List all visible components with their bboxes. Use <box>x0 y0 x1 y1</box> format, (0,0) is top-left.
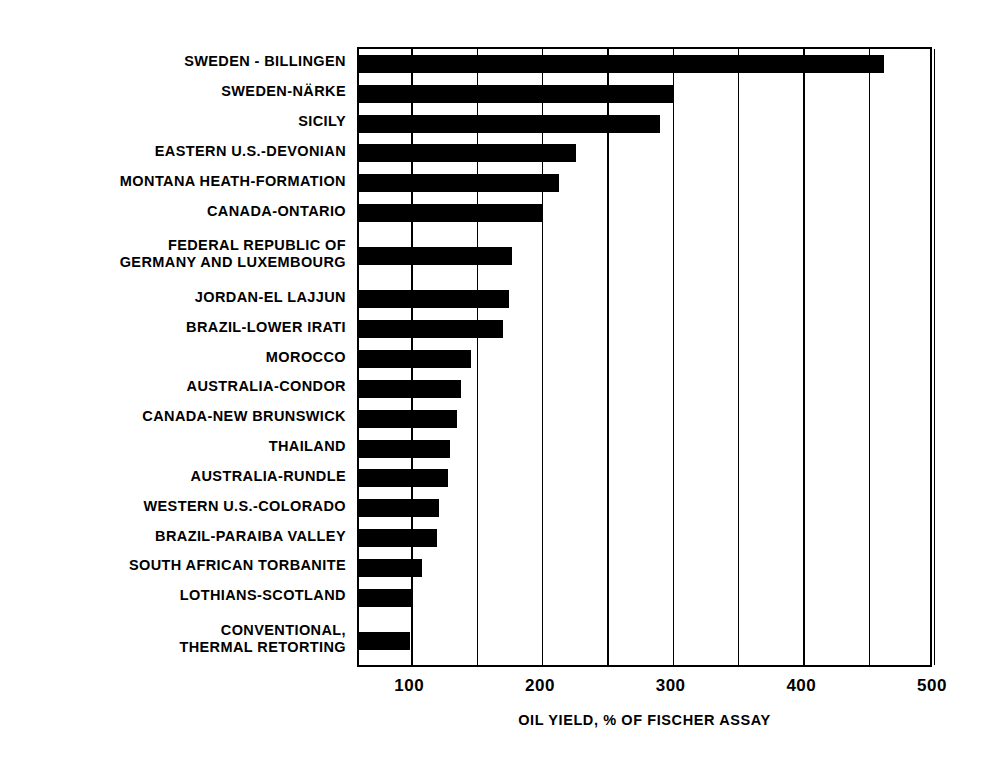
bar <box>359 144 576 162</box>
bar <box>359 440 450 458</box>
category-label: BRAZIL-LOWER IRATI <box>0 319 352 336</box>
bar <box>359 499 439 517</box>
x-tick-label-500: 500 <box>917 676 947 696</box>
category-label: CONVENTIONAL, THERMAL RETORTING <box>0 622 352 656</box>
bar <box>359 529 437 547</box>
category-label: MONTANA HEATH-FORMATION <box>0 173 352 190</box>
bar <box>359 350 471 368</box>
bar <box>359 632 410 650</box>
x-tick-label-200: 200 <box>525 676 555 696</box>
bar <box>359 55 884 73</box>
category-label: JORDAN-EL LAJJUN <box>0 289 352 306</box>
bar <box>359 115 660 133</box>
gridline-300 <box>673 49 674 665</box>
gridline-350 <box>738 49 739 665</box>
category-label: CANADA-ONTARIO <box>0 203 352 220</box>
gridline-250 <box>607 49 608 665</box>
gridline-200 <box>542 49 543 665</box>
x-tick-label-100: 100 <box>394 676 424 696</box>
bar <box>359 247 512 265</box>
category-label: THAILAND <box>0 438 352 455</box>
category-label: WESTERN U.S.-COLORADO <box>0 498 352 515</box>
x-axis-title: OIL YIELD, % OF FISCHER ASSAY <box>357 712 932 728</box>
bar <box>359 469 448 487</box>
category-axis-labels: SWEDEN - BILLINGENSWEDEN-NÄRKESICILYEAST… <box>0 47 352 667</box>
x-tick-label-400: 400 <box>786 676 816 696</box>
category-label: AUSTRALIA-RUNDLE <box>0 468 352 485</box>
plot-area <box>357 47 932 667</box>
category-label: FEDERAL REPUBLIC OF GERMANY AND LUXEMBOU… <box>0 237 352 271</box>
x-axis-tick-labels: 100200300400500 <box>0 676 990 702</box>
category-label: SWEDEN - BILLINGEN <box>0 53 352 70</box>
bar <box>359 85 673 103</box>
bar <box>359 410 457 428</box>
bar <box>359 320 503 338</box>
category-label: LOTHIANS-SCOTLAND <box>0 587 352 604</box>
bar <box>359 589 411 607</box>
bar <box>359 174 559 192</box>
category-label: MOROCCO <box>0 349 352 366</box>
gridline-150 <box>477 49 478 665</box>
category-label: SWEDEN-NÄRKE <box>0 83 352 100</box>
gridline-450 <box>869 49 870 665</box>
bar <box>359 290 509 308</box>
bar <box>359 204 543 222</box>
x-tick-label-300: 300 <box>656 676 686 696</box>
category-label: AUSTRALIA-CONDOR <box>0 378 352 395</box>
gridline-500 <box>934 49 935 665</box>
category-label: BRAZIL-PARAIBA VALLEY <box>0 528 352 545</box>
category-label: CANADA-NEW BRUNSWICK <box>0 408 352 425</box>
gridline-400 <box>803 49 804 665</box>
category-label: SICILY <box>0 113 352 130</box>
bar <box>359 380 461 398</box>
category-label: EASTERN U.S.-DEVONIAN <box>0 143 352 160</box>
bar <box>359 559 422 577</box>
category-label: SOUTH AFRICAN TORBANITE <box>0 557 352 574</box>
bar-chart: SWEDEN - BILLINGENSWEDEN-NÄRKESICILYEAST… <box>0 0 990 776</box>
